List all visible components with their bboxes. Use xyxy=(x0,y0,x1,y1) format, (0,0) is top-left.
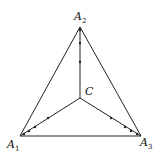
label-a2: A2 xyxy=(73,10,86,25)
label-c: C xyxy=(85,85,94,98)
label-a3: A3 xyxy=(139,136,152,151)
label-a1: A1 xyxy=(6,138,19,153)
triangle-diagram: A2 A1 A3 C xyxy=(0,0,159,154)
